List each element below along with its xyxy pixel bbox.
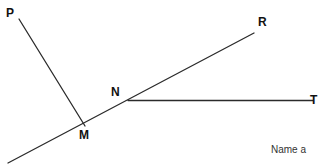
line-segment-m-n-r <box>8 33 254 163</box>
diagram-canvas <box>0 0 320 165</box>
geometry-diagram: P M N R T Name a <box>0 0 320 165</box>
point-label-t: T <box>310 94 317 106</box>
question-caption: Name a <box>271 144 306 156</box>
point-label-r: R <box>258 16 267 28</box>
point-label-m: M <box>79 129 89 141</box>
line-segment-p-m <box>19 19 85 126</box>
point-label-p: P <box>6 7 14 19</box>
point-label-n: N <box>111 86 120 98</box>
